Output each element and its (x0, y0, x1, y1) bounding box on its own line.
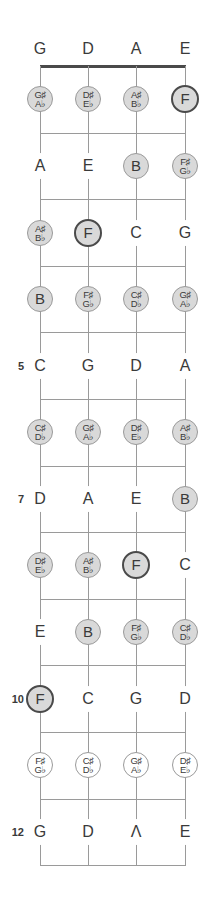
root-note-marker: F (122, 551, 150, 579)
note-flat-name: G♭ (131, 632, 142, 641)
fret-line (40, 133, 186, 134)
note-name: G (34, 822, 46, 842)
note-marker: D♯E♭ (27, 552, 53, 578)
note-marker: G (75, 353, 101, 379)
note-marker: B (172, 486, 198, 512)
note-flat-name: G♭ (83, 299, 94, 308)
note-flat-name: E♭ (180, 765, 190, 774)
note-marker: B (27, 286, 53, 312)
note-marker: E (27, 619, 53, 645)
open-string-label: E (170, 40, 200, 58)
note-name: A (35, 156, 46, 176)
note-marker: A♯B♭ (75, 552, 101, 578)
note-marker: F♯G♭ (75, 286, 101, 312)
note-name: E (83, 156, 94, 176)
note-name: E (131, 489, 142, 509)
fret-line (40, 732, 186, 733)
note-flat-name: D♭ (35, 432, 45, 441)
note-marker: E (75, 153, 101, 179)
fretboard-diagram: GDAEG♯A♭D♯E♭A♯B♭FAEBF♯G♭A♯B♭FCGBF♯G♭C♯D♭… (0, 0, 210, 900)
note-name: C (82, 689, 94, 709)
note-marker: C (172, 552, 198, 578)
fret-line (40, 466, 186, 467)
note-name: E (35, 622, 46, 642)
note-flat-name: A♭ (131, 765, 141, 774)
note-name: B (180, 491, 190, 507)
note-name: D (179, 689, 191, 709)
fret-line (40, 865, 186, 866)
fret-line (40, 532, 186, 533)
note-flat-name: A♭ (35, 99, 45, 108)
note-name: C (130, 223, 142, 243)
note-marker: D (123, 353, 149, 379)
note-marker: G (27, 819, 53, 845)
fret-line (40, 266, 186, 267)
open-string-label: D (73, 40, 103, 58)
note-marker: G (123, 686, 149, 712)
note-marker: B (75, 619, 101, 645)
fret-number-label: 12 (8, 825, 24, 839)
note-flat-name: D♭ (180, 632, 190, 641)
note-flat-name: A♭ (83, 432, 93, 441)
note-name: B (131, 158, 141, 174)
note-name: F (83, 225, 92, 241)
note-name: B (83, 624, 93, 640)
note-marker: G♯A♭ (123, 752, 149, 778)
note-name: Λ (131, 822, 142, 842)
note-marker: B (123, 153, 149, 179)
root-note-marker: F (171, 85, 199, 113)
note-marker: G (172, 220, 198, 246)
note-marker: E (123, 486, 149, 512)
note-flat-name: G♭ (180, 166, 191, 175)
note-flat-name: B♭ (131, 99, 141, 108)
note-marker: D♯E♭ (172, 752, 198, 778)
note-name: D (130, 356, 142, 376)
note-marker: E (172, 819, 198, 845)
open-string-label: A (121, 40, 151, 58)
fret-line (40, 665, 186, 666)
note-marker: A (75, 486, 101, 512)
note-marker: D♯E♭ (75, 86, 101, 112)
note-marker: F♯G♭ (172, 153, 198, 179)
note-marker: A (27, 153, 53, 179)
note-marker: C (27, 353, 53, 379)
note-flat-name: E♭ (35, 565, 45, 574)
note-marker: D♯E♭ (123, 419, 149, 445)
note-name: C (34, 356, 46, 376)
note-marker: D (27, 486, 53, 512)
note-marker: G♯A♭ (75, 419, 101, 445)
fret-line (40, 599, 186, 600)
root-note-marker: F (26, 685, 54, 713)
note-name: F (35, 691, 44, 707)
note-flat-name: E♭ (131, 432, 141, 441)
note-marker: C♯D♭ (172, 619, 198, 645)
note-marker: F♯G♭ (123, 619, 149, 645)
note-name: D (34, 489, 46, 509)
note-marker: G♯A♭ (172, 286, 198, 312)
note-marker: D (75, 819, 101, 845)
note-flat-name: B♭ (180, 432, 190, 441)
note-name: B (35, 291, 45, 307)
fret-line (40, 799, 186, 800)
note-flat-name: D♭ (83, 765, 93, 774)
fret-number-label: 7 (8, 492, 24, 506)
note-flat-name: D♭ (131, 299, 141, 308)
note-name: G (179, 223, 191, 243)
note-name: C (179, 555, 191, 575)
note-name: F (180, 91, 189, 107)
root-note-marker: F (74, 219, 102, 247)
note-marker: F♯G♭ (27, 752, 53, 778)
note-name: G (82, 356, 94, 376)
note-flat-name: B♭ (83, 565, 93, 574)
note-marker: A♯B♭ (123, 86, 149, 112)
note-marker: G♯A♭ (27, 86, 53, 112)
note-flat-name: B♭ (35, 233, 45, 242)
note-marker: C♯D♭ (27, 419, 53, 445)
fret-line (40, 399, 186, 400)
fret-line (40, 332, 186, 333)
note-name: E (180, 822, 191, 842)
note-marker: D (172, 686, 198, 712)
note-name: D (82, 822, 94, 842)
fret-number-label: 5 (8, 359, 24, 373)
fret-number-label: 10 (8, 692, 24, 706)
